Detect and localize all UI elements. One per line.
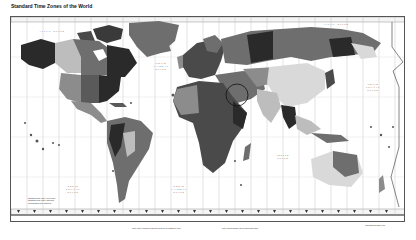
footer-note-3-text: International Date Line <box>365 224 385 226</box>
ocean-label-north-pacific: North Pacific Ocean <box>363 83 383 92</box>
ocean-label-arctic-east: Arctic Ocean <box>323 23 349 26</box>
ocean-label-arctic: Arctic Ocean <box>39 30 65 33</box>
map-title: Standard Time Zones of the World <box>11 3 92 9</box>
footer-note-1: Time zone numbers indicate hours to be a… <box>132 227 181 229</box>
world-map: Arctic Ocean North Atlantic Ocean South … <box>10 16 405 222</box>
map-legend: Standard time zone: even hour Standard t… <box>28 197 55 204</box>
ocean-label-south-atlantic: South Atlantic Ocean <box>169 185 189 194</box>
footer-note-1-text: Time zone numbers indicate hours to be a… <box>132 227 181 229</box>
footer-note-2: Time zones shown as of publication date <box>222 227 258 229</box>
legend-line-3: No standard time adopted <box>28 202 55 204</box>
date-line <box>391 22 403 207</box>
footer-note-3: International Date Line <box>365 224 385 226</box>
alaska <box>21 39 55 69</box>
greenland <box>129 21 179 57</box>
ocean-label-south-pacific: South Pacific Ocean <box>63 185 83 194</box>
footer-note-2-text: Time zones shown as of publication date <box>222 227 258 229</box>
ocean-label-north-atlantic: North Atlantic Ocean <box>151 62 171 71</box>
ocean-label-indian: Indian Ocean <box>273 154 293 160</box>
